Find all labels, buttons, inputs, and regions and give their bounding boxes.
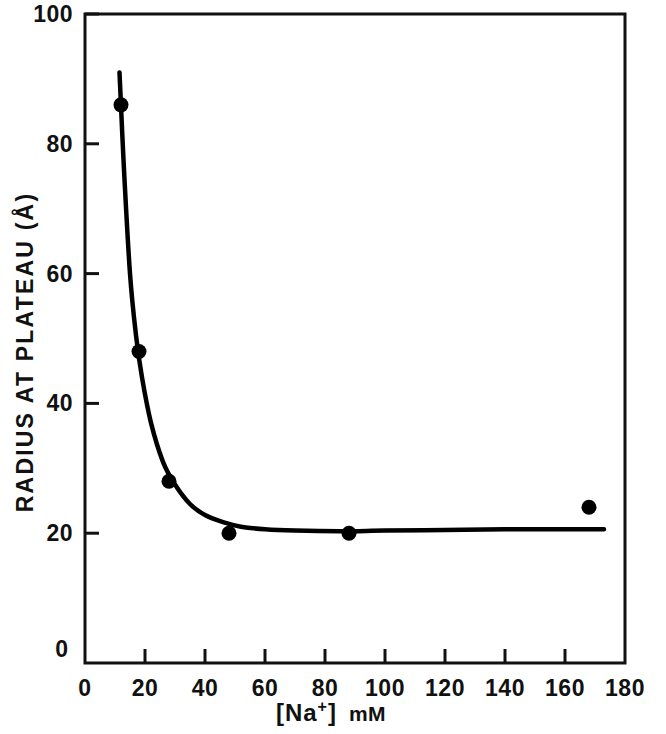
chart-background: [0, 0, 666, 734]
data-point: [162, 474, 177, 489]
x-axis-title-bracket: ]: [328, 699, 337, 726]
data-point: [114, 97, 129, 112]
scatter-line-chart: 20406080100 020406080100120140160180 0 R…: [0, 0, 666, 734]
x-tick-label: 100: [365, 675, 405, 701]
x-tick-label: 0: [78, 675, 91, 701]
y-tick-label: 80: [46, 131, 73, 157]
y-axis-title: RADIUS AT PLATEAU (Å): [11, 192, 38, 512]
y-tick-label: 60: [46, 261, 73, 287]
x-tick-label: 160: [545, 675, 585, 701]
data-point: [342, 526, 357, 541]
y-tick-label: 20: [46, 520, 73, 546]
x-tick-label: 20: [132, 675, 159, 701]
x-tick-label: 40: [192, 675, 219, 701]
y-tick-label: 40: [46, 390, 73, 416]
x-tick-label: 140: [485, 675, 525, 701]
data-point: [132, 344, 147, 359]
x-tick-label: 60: [252, 675, 279, 701]
x-tick-label: 120: [425, 675, 465, 701]
figure-container: 20406080100 020406080100120140160180 0 R…: [0, 0, 666, 734]
origin-zero-label: 0: [55, 636, 68, 662]
x-axis-title-prefix: [Na: [276, 699, 318, 726]
x-tick-label: 180: [605, 675, 645, 701]
y-tick-label: 100: [33, 1, 73, 27]
x-axis-title-superscript: +: [318, 698, 328, 715]
x-axis-title: [Na+]mM: [276, 698, 386, 726]
x-axis-title-unit: mM: [349, 702, 386, 725]
data-point: [582, 500, 597, 515]
data-point: [222, 526, 237, 541]
